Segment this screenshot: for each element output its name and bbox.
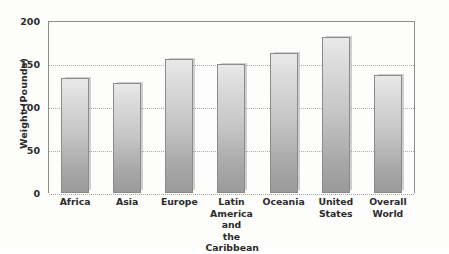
bar-slot	[53, 21, 97, 193]
x-axis-tick-labels: AfricaAsiaEuropeLatinAmerica andthe Cari…	[49, 196, 414, 254]
x-tick-label-line: World	[362, 208, 414, 220]
bar-asia	[113, 83, 141, 193]
y-tick-label-0: 0	[0, 188, 40, 199]
x-tick-label-africa: Africa	[49, 196, 101, 208]
x-tick-label-line: States	[310, 208, 362, 220]
x-tick-label-europe: Europe	[153, 196, 205, 208]
x-tick-label-line: Africa	[60, 196, 91, 207]
bar-overall-world	[374, 75, 402, 193]
y-tick-label-150: 150	[0, 59, 40, 70]
bar-europe	[165, 59, 193, 193]
x-tick-label-united-states: UnitedStates	[310, 196, 362, 219]
bar-slot	[105, 21, 149, 193]
y-tick-label-100: 100	[0, 102, 40, 113]
x-tick-label-line: America and	[205, 208, 257, 231]
x-tick-label-oceania: Oceania	[258, 196, 310, 208]
bar-africa	[61, 78, 89, 193]
y-axis-tick-labels: 050100150200	[0, 21, 44, 193]
x-tick-label-latin-america-and-the-caribbean: LatinAmerica andthe Caribbean	[205, 196, 257, 254]
x-tick-label-line: Oceania	[263, 196, 305, 207]
y-tick-label-200: 200	[0, 16, 40, 27]
x-tick-label-line: Overall	[369, 196, 407, 207]
x-tick-label-line: Asia	[116, 196, 138, 207]
bar-united-states	[322, 37, 350, 193]
gridline-0	[49, 194, 414, 195]
bar-slot	[209, 21, 253, 193]
y-tick-label-50: 50	[0, 145, 40, 156]
bar-oceania	[270, 53, 298, 193]
bar-slot	[157, 21, 201, 193]
x-tick-label-asia: Asia	[101, 196, 153, 208]
x-tick-label-line: United	[318, 196, 353, 207]
x-tick-label-overall-world: OverallWorld	[362, 196, 414, 219]
bar-latin-america-and-the-caribbean	[217, 64, 245, 193]
x-tick-label-line: the Caribbean	[205, 231, 257, 254]
bar-slot	[314, 21, 358, 193]
bar-slot	[366, 21, 410, 193]
bar-series	[49, 21, 414, 193]
bar-slot	[262, 21, 306, 193]
x-tick-label-line: Latin	[218, 196, 244, 207]
x-tick-label-line: Europe	[161, 196, 198, 207]
